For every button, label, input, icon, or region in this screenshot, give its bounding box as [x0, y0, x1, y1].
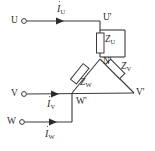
node-label-v-prime: V' — [136, 88, 145, 98]
impedance-zu-body — [97, 33, 105, 53]
terminal-label-u: U — [11, 16, 18, 26]
arrow-current-iu — [56, 17, 64, 24]
impedance-subscript-zv: V — [126, 65, 131, 72]
current-label-iw: IW — [45, 129, 54, 139]
current-symbol-iv: I — [47, 99, 50, 109]
node-label-u-prime: U' — [103, 13, 112, 23]
terminal-circle-u[interactable] — [22, 19, 27, 24]
wire-v-feed — [27, 93, 134, 94]
current-label-iv: IV — [47, 99, 55, 109]
terminal-label-v: V — [11, 89, 18, 99]
arrow-current-iv — [51, 90, 59, 97]
terminal-circle-v[interactable] — [22, 92, 27, 97]
node-label-w-prime: W' — [76, 97, 87, 107]
circuit-schematic-canvas — [0, 0, 155, 151]
arrow-current-iw — [49, 118, 57, 125]
current-subscript-iw: W — [49, 133, 55, 140]
node-label-n-prime: N' — [103, 57, 112, 67]
impedance-label-zu: ZU — [105, 35, 115, 45]
current-symbol-iw: I — [45, 129, 48, 139]
terminal-circle-w[interactable] — [20, 120, 25, 125]
current-subscript-iu: U — [61, 8, 66, 15]
terminal-label-w: W — [7, 117, 16, 127]
current-label-iu: IU — [57, 4, 65, 14]
impedance-subscript-zw: W — [85, 81, 91, 88]
circuit-diagram: U V W U' N' V' W' IU IV IW ZU ZV ZW — [0, 0, 155, 151]
current-subscript-iv: V — [51, 103, 56, 110]
impedance-label-zv: ZV — [121, 62, 131, 72]
impedance-subscript-zu: U — [110, 38, 115, 45]
current-symbol-iu: I — [57, 4, 60, 14]
impedance-label-zw: ZW — [80, 78, 91, 88]
